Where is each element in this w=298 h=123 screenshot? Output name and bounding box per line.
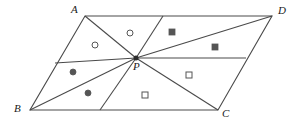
open-circle-marker-1 <box>92 42 98 48</box>
segment-P-top-edge <box>136 16 163 58</box>
geometry-figure: ABCDP <box>0 0 298 123</box>
open-square-marker-2 <box>142 92 148 98</box>
filled-square-marker-2 <box>212 44 218 50</box>
filled-circle-marker-1 <box>70 69 76 75</box>
open-circle-marker-2 <box>127 30 133 36</box>
vertex-label-P: P <box>133 61 140 72</box>
filled-circle-marker-2 <box>85 90 91 96</box>
segment-P-B <box>30 58 136 110</box>
segment-P-A <box>85 16 136 58</box>
geometry-canvas <box>0 0 298 123</box>
cevian-segments <box>30 16 272 110</box>
segment-P-left-edge <box>55 58 136 63</box>
vertex-label-D: D <box>278 5 286 16</box>
vertex-label-C: C <box>222 108 229 119</box>
open-square-marker-1 <box>186 72 192 78</box>
filled-square-marker-1 <box>169 29 175 35</box>
segment-P-C <box>136 58 218 110</box>
vertex-label-B: B <box>14 103 21 114</box>
segment-P-bottom-edge <box>100 58 136 110</box>
parallelogram-outline <box>30 16 272 110</box>
vertex-label-A: A <box>71 4 78 15</box>
